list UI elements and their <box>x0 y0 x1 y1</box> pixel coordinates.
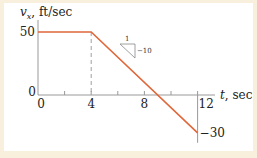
series-line-vx <box>38 32 198 133</box>
velocity-time-chart: 04812500−30 1 −10 vx, ft/sec t, sec <box>0 0 257 158</box>
slope-rise-label: −10 <box>137 47 152 55</box>
x-axis-label-unit: , sec <box>225 88 253 102</box>
y-tick-label--30: −30 <box>200 126 225 140</box>
slope-triangle <box>120 44 135 58</box>
x-tick-label-8: 8 <box>141 97 149 111</box>
y-axis-label-unit: , ft/sec <box>31 5 72 19</box>
slope-run-label: 1 <box>125 35 129 43</box>
x-tick-label-12: 12 <box>199 97 214 111</box>
y-tick-label-0: 0 <box>28 85 36 99</box>
x-tick-label-4: 4 <box>87 97 95 111</box>
y-axis-label: vx, ft/sec <box>20 5 72 21</box>
y-tick-label-50: 50 <box>20 25 35 39</box>
x-tick-label-0: 0 <box>37 97 45 111</box>
x-axis-label: t, sec <box>220 88 253 102</box>
